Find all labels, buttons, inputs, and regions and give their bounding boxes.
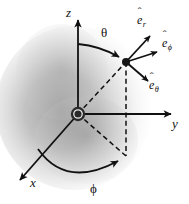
e-r-hat: ˆ bbox=[138, 6, 142, 17]
x-axis-label: x bbox=[30, 176, 36, 189]
e-phi-label: ˆeϕ bbox=[162, 37, 172, 52]
background-shading bbox=[0, 24, 152, 190]
e-theta-subscript: θ bbox=[155, 85, 159, 94]
theta-angle-label: θ bbox=[101, 26, 107, 39]
e-r-label: ˆer bbox=[137, 14, 146, 29]
diagram-canvas bbox=[0, 0, 189, 204]
origin-marker bbox=[71, 107, 85, 121]
e-theta-label: ˆeθ bbox=[149, 79, 159, 94]
e-r-subscript: r bbox=[143, 20, 146, 29]
point-p-marker bbox=[122, 58, 130, 66]
e-phi-hat: ˆ bbox=[163, 29, 167, 40]
e-theta-hat: ˆ bbox=[150, 71, 154, 82]
y-axis-label: y bbox=[172, 117, 178, 130]
spherical-coordinates-figure: z y x θ ϕ ˆer ˆeϕ ˆeθ bbox=[0, 0, 189, 204]
phi-angle-label: ϕ bbox=[90, 182, 97, 195]
e-phi-subscript: ϕ bbox=[168, 43, 172, 52]
z-axis-label: z bbox=[66, 6, 71, 19]
